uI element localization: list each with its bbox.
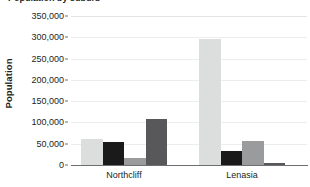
y-axis-tick-mark [65,122,68,123]
y-axis-tick-label: 0 [59,160,64,170]
bar [124,158,146,165]
gridline [71,37,307,38]
y-axis-tick-label: 50,000 [36,139,64,149]
x-axis-category-labels: NorthcliffLenasia [71,168,307,184]
y-axis-tick-mark [65,58,68,59]
y-axis-tick-mark [65,101,68,102]
y-axis-tick-labels: 050,000100,000150,000200,000250,000300,0… [16,0,68,166]
bar [199,39,221,165]
y-axis-tick-mark [65,79,68,80]
y-axis-tick-mark [65,37,68,38]
y-axis-title-text: Population [3,58,14,108]
bar [103,142,125,165]
plot-area [71,16,307,165]
gridline [71,80,307,81]
y-axis-title: Population [0,0,16,166]
bar [146,119,168,165]
y-axis-tick-mark [65,165,68,166]
y-axis-tick-label: 250,000 [31,54,64,64]
gridline [71,59,307,60]
bar [242,141,264,165]
y-axis-tick-mark [65,16,68,17]
bar-chart: Population by suburb Population 050,0001… [0,0,310,187]
bar [221,151,243,165]
bar [81,139,103,165]
y-axis-tick-label: 200,000 [31,75,64,85]
y-axis-tick-mark [65,143,68,144]
y-axis-tick-label: 150,000 [31,96,64,106]
x-axis-category-label: Lenasia [226,170,258,180]
gridline [71,101,307,102]
y-axis-tick-label: 350,000 [31,11,64,21]
bar [264,163,286,165]
gridline [71,122,307,123]
x-axis-line [71,165,308,166]
y-axis-tick-label: 100,000 [31,117,64,127]
gridline [71,16,307,17]
y-axis-tick-label: 300,000 [31,32,64,42]
x-axis-category-label: Northcliff [106,170,141,180]
